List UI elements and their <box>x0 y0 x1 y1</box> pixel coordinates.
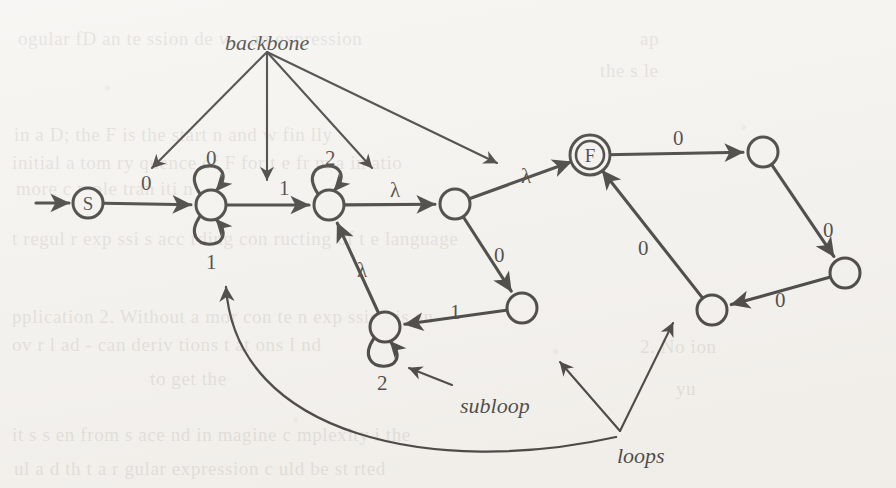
edge-label: 1 <box>279 176 290 201</box>
callout-leader-loops <box>620 323 673 431</box>
transition-edge <box>602 171 702 298</box>
self-loop-label: 0 <box>206 146 217 171</box>
edge-label: λ <box>357 258 367 283</box>
callout-label-loops: loops <box>617 443 665 469</box>
state-node-n5 <box>370 312 400 342</box>
state-node-n3 <box>440 189 470 219</box>
callout-leader-loops <box>560 362 620 431</box>
loops-long-leader <box>226 287 616 452</box>
edge-label: λ <box>390 178 400 203</box>
edge-label: 0 <box>673 126 684 151</box>
automaton-diagram: SF <box>0 0 896 488</box>
figure-page: ogular fD an te ssion de w - an expressi… <box>0 0 896 488</box>
self-loop-label: 2 <box>377 371 388 396</box>
state-node-n4 <box>507 293 537 323</box>
transition-edge <box>606 152 743 154</box>
state-node-start: S <box>73 188 103 218</box>
state-node-n1 <box>196 190 226 220</box>
state-node-n7 <box>748 137 778 167</box>
state-node-n2 <box>314 190 344 220</box>
state-node-final: F <box>570 135 610 175</box>
edge-label: 0 <box>775 288 786 313</box>
node-layer: SF <box>73 135 860 342</box>
transition-edge <box>345 204 435 205</box>
callout-leader-backbone <box>267 52 372 168</box>
edge-label: 1 <box>450 300 461 325</box>
state-node-n6 <box>697 295 727 325</box>
callout-leader-backbone <box>267 52 497 163</box>
state-node-label: S <box>83 193 94 214</box>
transition-edge <box>104 203 191 204</box>
callout-leader-layer <box>152 52 673 452</box>
edge-label: 0 <box>638 236 649 261</box>
state-node-label: F <box>585 145 596 166</box>
callout-label-subloop: subloop <box>460 393 530 419</box>
state-node-n8 <box>830 258 860 288</box>
edge-label: 0 <box>494 243 505 268</box>
edge-label: 0 <box>141 171 152 196</box>
callout-leader-subloop <box>409 368 452 385</box>
self-loop-label: 2 <box>325 146 336 171</box>
self-loop-label: 1 <box>206 250 217 275</box>
edge-label: 0 <box>823 218 834 243</box>
edge-label: λ <box>521 164 531 189</box>
callout-label-backbone: backbone <box>225 30 309 56</box>
